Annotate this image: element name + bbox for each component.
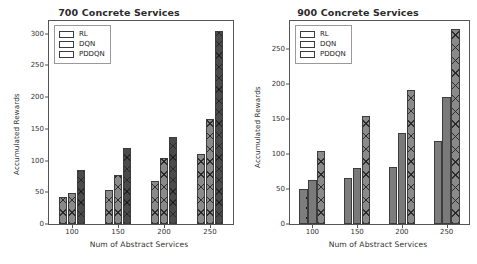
- x-tick-mark: [118, 225, 119, 228]
- bar-dqn-250: [442, 97, 450, 224]
- bar-dqn-250: [206, 119, 215, 224]
- y-tick-label: 0: [18, 220, 44, 228]
- legend-item-rl: RL: [59, 30, 105, 39]
- y-tick-label: 150: [259, 115, 285, 123]
- legend-item-dqn: DQN: [59, 40, 105, 49]
- y-tick-label: 0: [259, 220, 285, 228]
- y-tick-label: 50: [259, 185, 285, 193]
- x-axis-label-700: Num of Abstract Services: [0, 240, 238, 249]
- chart-title-900: 900 Concrete Services: [239, 7, 477, 18]
- legend-swatch-dqn-icon: [300, 41, 315, 48]
- y-tick-label: 300: [18, 30, 44, 38]
- x-tick-label: 150: [342, 228, 372, 236]
- bar-pddqn-100: [317, 151, 325, 225]
- legend-swatch-pddqn-icon: [59, 51, 74, 58]
- bar-pddqn-250: [451, 29, 459, 224]
- legend-swatch-pddqn-icon: [300, 51, 315, 58]
- bar-dqn-100: [68, 193, 77, 224]
- legend-700: RL DQN PDDQN: [54, 25, 111, 64]
- bar-dqn-200: [160, 158, 169, 224]
- chart-panel-700: 700 Concrete Services Accumulated Reward…: [0, 0, 238, 264]
- legend-item-dqn: DQN: [300, 40, 346, 49]
- legend-swatch-rl-icon: [300, 31, 315, 38]
- legend-item-pddqn: PDDQN: [300, 50, 346, 59]
- legend-label-rl: RL: [79, 30, 88, 39]
- x-tick-label: 250: [432, 228, 462, 236]
- x-tick-mark: [210, 225, 211, 228]
- x-tick-mark: [72, 225, 73, 228]
- legend-label-dqn: DQN: [79, 40, 95, 49]
- y-tick-label: 50: [18, 188, 44, 196]
- x-tick-mark: [312, 225, 313, 228]
- chart-title-700: 700 Concrete Services: [0, 7, 238, 18]
- x-tick-mark: [357, 225, 358, 228]
- bar-pddqn-150: [123, 148, 132, 224]
- bar-dqn-150: [353, 168, 361, 224]
- bar-pddqn-100: [77, 170, 86, 224]
- legend-swatch-dqn-icon: [59, 41, 74, 48]
- y-tick-label: 200: [18, 93, 44, 101]
- legend-label-rl: RL: [320, 30, 329, 39]
- y-tick-label: 200: [259, 80, 285, 88]
- legend-label-pddqn: PDDQN: [320, 50, 346, 59]
- y-tick-label: 150: [18, 125, 44, 133]
- bar-pddqn-200: [169, 137, 178, 224]
- x-tick-label: 250: [195, 228, 225, 236]
- bar-dqn-150: [114, 175, 123, 224]
- y-tick-label: 100: [18, 157, 44, 165]
- y-tick-label: 250: [18, 61, 44, 69]
- x-tick-label: 100: [297, 228, 327, 236]
- legend-900: RL DQN PDDQN: [295, 25, 352, 64]
- chart-panel-900: 900 Concrete Services Accumulated Reward…: [239, 0, 477, 264]
- bar-rl-150: [105, 190, 114, 224]
- bar-rl-200: [389, 167, 397, 224]
- bar-rl-250: [197, 154, 206, 224]
- x-tick-label: 200: [387, 228, 417, 236]
- x-tick-label: 100: [57, 228, 87, 236]
- x-tick-mark: [447, 225, 448, 228]
- bar-pddqn-250: [215, 31, 224, 224]
- y-tick-label: 100: [259, 150, 285, 158]
- bar-rl-100: [299, 189, 307, 224]
- bar-rl-150: [344, 178, 352, 224]
- legend-item-rl: RL: [300, 30, 346, 39]
- x-tick-label: 200: [149, 228, 179, 236]
- legend-item-pddqn: PDDQN: [59, 50, 105, 59]
- legend-label-dqn: DQN: [320, 40, 336, 49]
- legend-label-pddqn: PDDQN: [79, 50, 105, 59]
- figure-two-bar-charts: 700 Concrete Services Accumulated Reward…: [0, 0, 477, 264]
- x-axis-label-900: Num of Abstract Services: [239, 240, 477, 249]
- bar-pddqn-150: [362, 116, 370, 224]
- bar-dqn-100: [308, 180, 316, 224]
- legend-swatch-rl-icon: [59, 31, 74, 38]
- bar-rl-200: [151, 181, 160, 224]
- bar-dqn-200: [398, 133, 406, 224]
- x-tick-mark: [164, 225, 165, 228]
- y-tick-label: 250: [259, 45, 285, 53]
- bar-pddqn-200: [407, 90, 415, 224]
- x-tick-mark: [402, 225, 403, 228]
- x-tick-label: 150: [103, 228, 133, 236]
- bar-rl-250: [434, 141, 442, 224]
- bar-rl-100: [59, 197, 68, 224]
